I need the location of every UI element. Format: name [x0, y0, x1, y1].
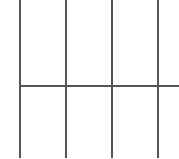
grid-vertical-line-2 [65, 0, 67, 158]
grid-vertical-line-4 [157, 0, 159, 158]
grid-horizontal-line-1 [20, 85, 179, 87]
grid-vertical-line-3 [111, 0, 113, 158]
grid-fragment [0, 0, 179, 159]
grid-vertical-line-1 [19, 0, 21, 158]
